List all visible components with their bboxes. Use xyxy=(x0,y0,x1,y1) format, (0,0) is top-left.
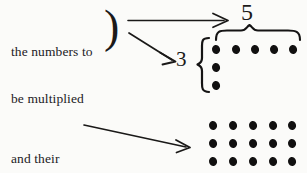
arrow-right-icon xyxy=(128,14,228,28)
annotation-overlay xyxy=(0,0,307,173)
arrow-down-right-icon-rows xyxy=(129,33,176,65)
curly-brace-vertical-icon xyxy=(198,38,210,92)
arrow-down-right-icon-product xyxy=(84,125,190,153)
multiplication-array-figure: the numbers to be multiplied and their p… xyxy=(0,0,307,173)
curly-brace-horizontal-icon xyxy=(216,25,300,40)
